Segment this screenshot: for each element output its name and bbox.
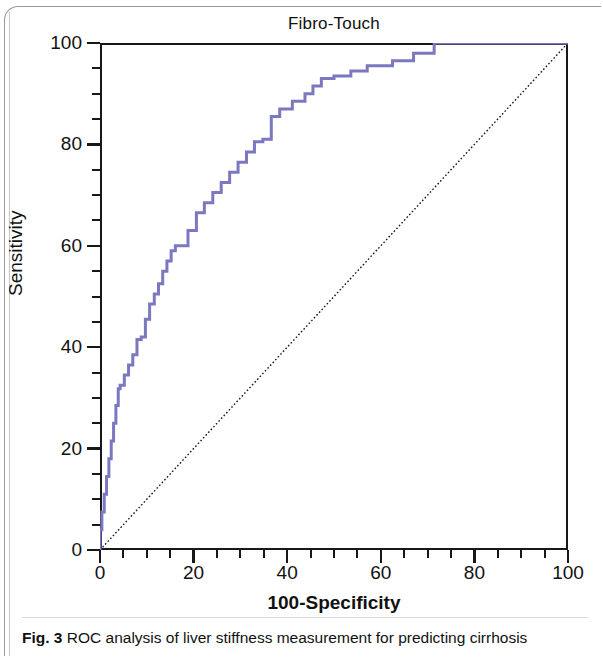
y-axis-tick xyxy=(92,118,100,120)
x-axis-tick xyxy=(427,550,429,558)
y-axis-tick xyxy=(92,372,100,374)
x-axis-tick xyxy=(122,550,124,558)
y-axis-tick xyxy=(92,194,100,196)
x-axis-tick xyxy=(403,550,405,558)
y-axis-tick xyxy=(87,447,100,450)
y-axis-tick xyxy=(92,473,100,475)
y-axis-tick xyxy=(92,524,100,526)
y-axis-tick xyxy=(92,397,100,399)
y-axis-tick-label: 80 xyxy=(20,133,82,155)
x-axis-tick-label: 100 xyxy=(533,562,603,584)
caption-divider xyxy=(22,617,588,618)
x-axis-tick-label: 80 xyxy=(439,562,509,584)
y-axis-tick xyxy=(92,498,100,500)
y-axis-tick xyxy=(92,422,100,424)
y-axis-tick-label: 20 xyxy=(20,438,82,460)
x-axis-tick xyxy=(333,550,335,558)
x-axis-tick xyxy=(310,550,312,558)
roc-plot-svg xyxy=(100,43,568,550)
y-axis-tick xyxy=(92,93,100,95)
reference-diagonal-line xyxy=(100,43,568,550)
y-axis-tick-label: 0 xyxy=(20,539,82,561)
x-axis-tick xyxy=(356,550,358,558)
x-axis-tick xyxy=(450,550,452,558)
chart-title: Fibro-Touch xyxy=(100,14,568,34)
x-axis-tick xyxy=(544,550,546,558)
y-axis-tick-label: 100 xyxy=(20,32,82,54)
x-axis-tick-label: 0 xyxy=(65,562,135,584)
y-axis-tick-label: 40 xyxy=(20,336,82,358)
y-axis-tick-label: 60 xyxy=(20,235,82,257)
x-axis-tick-label: 40 xyxy=(252,562,322,584)
y-axis-tick xyxy=(92,169,100,171)
y-axis-tick xyxy=(92,321,100,323)
x-axis-tick xyxy=(520,550,522,558)
y-axis-tick xyxy=(87,245,100,248)
figure-caption: Fig. 3 ROC analysis of liver stiffness m… xyxy=(22,628,588,647)
plot-area: 020406080100020406080100 xyxy=(100,43,568,550)
x-axis-tick-label: 20 xyxy=(159,562,229,584)
x-axis-tick xyxy=(216,550,218,558)
y-axis-tick xyxy=(92,270,100,272)
x-axis-tick xyxy=(263,550,265,558)
x-axis-tick xyxy=(146,550,148,558)
y-axis-tick xyxy=(92,296,100,298)
x-axis-tick-label: 60 xyxy=(346,562,416,584)
y-axis-tick xyxy=(87,346,100,349)
x-axis-tick xyxy=(497,550,499,558)
caption-label: Fig. 3 xyxy=(22,629,62,646)
x-axis-tick xyxy=(169,550,171,558)
caption-body: ROC analysis of liver stiffness measurem… xyxy=(67,629,528,646)
y-axis-tick xyxy=(87,143,100,146)
x-axis-title: 100-Specificity xyxy=(100,592,568,614)
y-axis-tick xyxy=(92,219,100,221)
y-axis-tick xyxy=(87,42,100,45)
x-axis-tick xyxy=(239,550,241,558)
y-axis-tick xyxy=(92,67,100,69)
